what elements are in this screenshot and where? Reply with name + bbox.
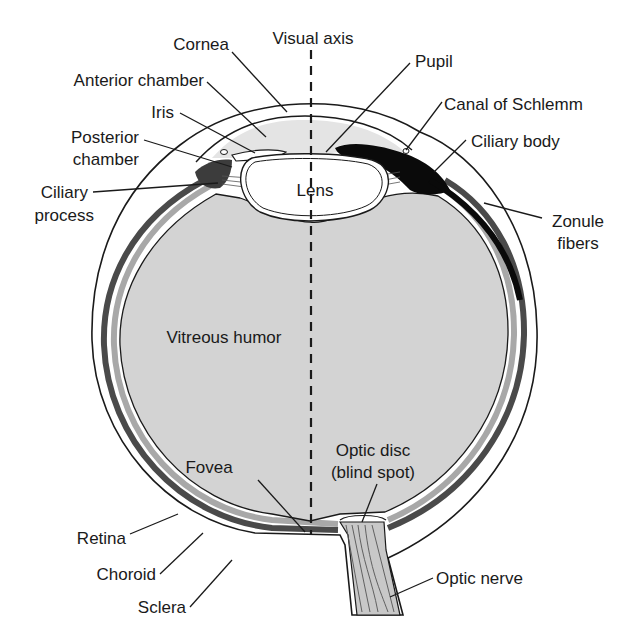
label-posterior-chamber-2: chamber xyxy=(73,150,139,169)
label-cornea: Cornea xyxy=(173,35,229,54)
label-iris: Iris xyxy=(151,103,174,122)
leader-sclera xyxy=(190,560,232,607)
eye-diagram-svg: Cornea Visual axis Pupil Anterior chambe… xyxy=(0,0,629,638)
leader-choroid xyxy=(160,533,203,574)
leader-retina xyxy=(130,514,178,534)
label-canal-of-schlemm: Canal of Schlemm xyxy=(444,95,583,114)
label-choroid: Choroid xyxy=(96,565,156,584)
label-optic-disc-1: Optic disc xyxy=(336,441,411,460)
label-pupil: Pupil xyxy=(415,52,453,71)
label-retina: Retina xyxy=(77,529,127,548)
label-sclera: Sclera xyxy=(138,598,187,617)
label-ciliary-process-1: Ciliary xyxy=(41,183,89,202)
canal-of-schlemm-left xyxy=(221,150,228,155)
label-optic-nerve: Optic nerve xyxy=(436,569,523,588)
label-zonule-fibers-1: Zonule xyxy=(552,212,604,231)
label-posterior-chamber-1: Posterior xyxy=(71,128,139,147)
leader-cornea xyxy=(232,52,287,112)
label-ciliary-process-2: process xyxy=(34,206,94,225)
label-lens: Lens xyxy=(297,181,334,200)
label-anterior-chamber: Anterior chamber xyxy=(74,71,205,90)
eye-diagram: Cornea Visual axis Pupil Anterior chambe… xyxy=(0,0,629,638)
label-fovea: Fovea xyxy=(185,458,233,477)
label-optic-disc-2: (blind spot) xyxy=(331,463,415,482)
label-visual-axis: Visual axis xyxy=(273,29,354,48)
label-vitreous-humor: Vitreous humor xyxy=(167,328,282,347)
label-ciliary-body: Ciliary body xyxy=(471,132,560,151)
label-zonule-fibers-2: fibers xyxy=(557,234,599,253)
